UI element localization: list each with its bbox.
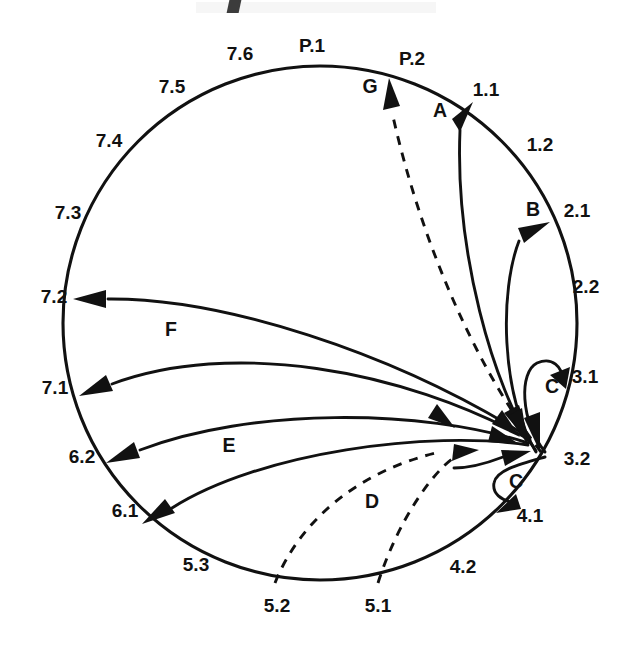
flow-label-D: D: [365, 490, 379, 512]
perimeter-label-7-6: 7.6: [227, 43, 253, 64]
flow-label-A: A: [433, 99, 447, 121]
flow-arc-E-to-62: [140, 418, 528, 450]
flow-label-C-lower: C: [509, 470, 523, 492]
flow-label-G: G: [362, 75, 377, 97]
perimeter-label-6-1: 6.1: [112, 500, 139, 521]
arrow-head-A-to-11: [452, 102, 473, 132]
flow-label-B: B: [526, 198, 540, 220]
perimeter-label-7-3: 7.3: [55, 202, 81, 223]
perimeter-label-3-1: 3.1: [572, 366, 599, 387]
flow-arc-D-from-51: [378, 459, 452, 583]
flow-label-E: E: [222, 434, 235, 456]
flow-arc-C-into-hub: [454, 457, 503, 468]
perimeter-label-4-2: 4.2: [450, 556, 476, 577]
perimeter-label-7-1: 7.1: [42, 377, 69, 398]
perimeter-label-7-5: 7.5: [159, 76, 186, 97]
diagram-canvas: P.1 P.2 7.6 7.5 7.4 7.3 7.2 7.1 6.2 6.1 …: [0, 0, 629, 645]
perimeter-label-7-2: 7.2: [41, 286, 67, 307]
perimeter-label-P2: P.2: [399, 48, 425, 69]
perimeter-label-2-1: 2.1: [564, 200, 591, 221]
arrow-head-F-to-71: [79, 375, 113, 396]
perimeter-label-2-2: 2.2: [573, 276, 599, 297]
perimeter-label-5-3: 5.3: [183, 554, 209, 575]
boundary-circle: [63, 66, 577, 580]
perimeter-label-1-1: 1.1: [473, 79, 500, 100]
perimeter-label-1-2: 1.2: [527, 134, 553, 155]
flow-label-F: F: [165, 318, 177, 340]
arrow-head-B-to-21: [518, 222, 550, 243]
perimeter-label-P1: P.1: [299, 35, 326, 56]
diagram-root: P.1 P.2 7.6 7.5 7.4 7.3 7.2 7.1 6.2 6.1 …: [0, 0, 629, 645]
perimeter-label-4-1: 4.1: [517, 505, 544, 526]
flow-label-C-upper: C: [545, 375, 559, 397]
arrow-head-F-to-72: [73, 290, 106, 308]
arrow-head-G-to-P2: [383, 78, 400, 110]
perimeter-label-3-2: 3.2: [564, 448, 590, 469]
arrow-head-D-to-hub: [452, 444, 479, 461]
arrow-head-E-to-62: [106, 442, 140, 463]
perimeter-label-6-2: 6.2: [69, 446, 95, 467]
perimeter-label-5-1: 5.1: [365, 595, 392, 616]
perimeter-label-5-2: 5.2: [264, 595, 290, 616]
perimeter-label-7-4: 7.4: [96, 130, 123, 151]
